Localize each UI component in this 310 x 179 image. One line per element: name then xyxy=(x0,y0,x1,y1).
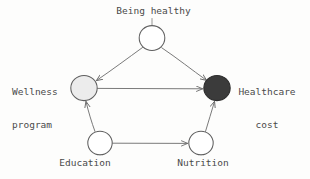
node-education[interactable] xyxy=(88,131,112,155)
node-label-healthcare-cost-line2: cost xyxy=(230,119,304,130)
edge-education-to-wellness xyxy=(86,102,95,132)
diagram-canvas: Being healthy Wellness program Healthcar… xyxy=(0,0,310,179)
edge-being-healthy-to-healthcare-cost xyxy=(162,48,207,81)
edge-being-healthy-to-wellness xyxy=(97,48,143,81)
node-healthcare-cost[interactable] xyxy=(204,75,230,100)
node-label-wellness-program-line1: Wellness xyxy=(12,86,78,97)
node-nutrition[interactable] xyxy=(189,131,213,155)
node-label-healthcare-cost: Healthcare cost xyxy=(230,64,304,152)
node-label-wellness-program-line2: program xyxy=(12,119,78,130)
node-label-nutrition: Nutrition xyxy=(170,157,236,168)
node-being-healthy[interactable] xyxy=(139,26,165,51)
node-label-wellness-program: Wellness program xyxy=(12,64,78,152)
node-label-education: Education xyxy=(52,157,118,168)
node-label-healthcare-cost-line1: Healthcare xyxy=(230,86,304,97)
edge-nutrition-to-healthcare-cost xyxy=(206,102,215,132)
node-label-being-healthy: Being healthy xyxy=(106,5,201,16)
